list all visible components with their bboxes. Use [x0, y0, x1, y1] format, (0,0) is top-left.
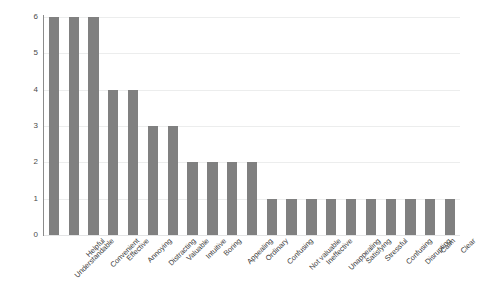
- bar: [128, 90, 138, 235]
- y-tick-label: 3: [16, 122, 38, 130]
- bar: [207, 162, 217, 235]
- bar: [306, 199, 316, 235]
- bar: [286, 199, 296, 235]
- bar: [69, 17, 79, 235]
- gridline: [44, 235, 460, 236]
- y-tick-label: 6: [16, 13, 38, 21]
- bar: [366, 199, 376, 235]
- bar: [267, 199, 277, 235]
- bar: [49, 17, 59, 235]
- y-tick-label: 4: [16, 86, 38, 94]
- bar: [346, 199, 356, 235]
- bar: [445, 199, 455, 235]
- bar: [247, 162, 257, 235]
- y-tick-label: 5: [16, 49, 38, 57]
- y-axis-tick-labels: 0123456: [0, 17, 38, 235]
- bars-container: [44, 17, 460, 235]
- y-tick-label: 1: [16, 195, 38, 203]
- x-tick-label: Clear: [459, 237, 477, 255]
- bar: [187, 162, 197, 235]
- bar: [108, 90, 118, 235]
- x-axis-tick-labels: UnderstandableHelpfulConvenientEffective…: [44, 237, 474, 294]
- y-tick-label: 0: [16, 231, 38, 239]
- y-tick-label: 2: [16, 158, 38, 166]
- bar: [168, 126, 178, 235]
- bar: [88, 17, 98, 235]
- bar: [425, 199, 435, 235]
- bar: [326, 199, 336, 235]
- bar: [386, 199, 396, 235]
- bar: [405, 199, 415, 235]
- bar: [148, 126, 158, 235]
- bar: [227, 162, 237, 235]
